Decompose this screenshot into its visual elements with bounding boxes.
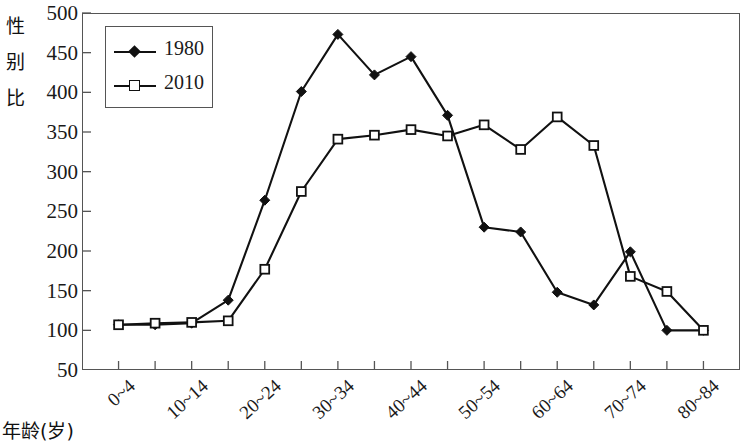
- legend-label: 1980: [164, 37, 204, 60]
- x-axis-tick: 30~34: [305, 375, 359, 426]
- legend-entry-2010: 2010: [106, 69, 212, 103]
- x-axis-tick-label: 30~34: [305, 375, 359, 426]
- y-axis-tick-labels: 10015020025030035040045050050: [22, 0, 78, 448]
- x-axis-tick-label: 40~44: [378, 375, 432, 426]
- x-axis-tick-label: 50~54: [451, 375, 505, 426]
- legend-entry-1980: 1980: [106, 35, 212, 69]
- x-axis-tick: 40~44: [378, 375, 432, 426]
- x-axis-tick-label: 20~24: [232, 375, 286, 426]
- legend: 1980 2010: [105, 26, 213, 108]
- filled-diamond-icon: [128, 45, 141, 58]
- x-axis-tick: 0~4: [100, 375, 139, 414]
- y-axis-tick-label: 300: [32, 159, 78, 184]
- x-axis-tick: 70~74: [597, 375, 651, 426]
- legend-label: 2010: [164, 71, 204, 94]
- x-axis-tick: 80~84: [671, 375, 725, 426]
- x-axis-tick-label: 80~84: [671, 375, 725, 426]
- y-axis-tick-label: 150: [32, 278, 78, 303]
- x-axis-tick-label: 0~4: [100, 375, 139, 414]
- y-axis-tick-label: 400: [32, 80, 78, 105]
- x-axis-tick-label: 70~74: [597, 375, 651, 426]
- y-axis-tick-label: 200: [32, 239, 78, 264]
- y-axis-tick-label: 350: [32, 120, 78, 145]
- x-axis-tick-label: 60~64: [524, 375, 578, 426]
- x-axis-tick: 20~24: [232, 375, 286, 426]
- x-axis-tick: 60~64: [524, 375, 578, 426]
- open-square-icon: [129, 80, 140, 91]
- y-axis-tick-label: 250: [32, 199, 78, 224]
- y-axis-tick-label: 50: [32, 358, 78, 383]
- x-axis-tick-label: 10~14: [159, 375, 213, 426]
- chart-figure: 性别比 10015020025030035040045050050 1980 2…: [0, 0, 751, 448]
- x-axis-tick: 10~14: [159, 375, 213, 426]
- x-axis-tick: 50~54: [451, 375, 505, 426]
- y-axis-tick-label: 100: [32, 318, 78, 343]
- y-axis-tick-label: 450: [32, 40, 78, 65]
- x-axis-title: 年龄(岁): [2, 416, 74, 443]
- y-axis-tick-label: 500: [32, 1, 78, 26]
